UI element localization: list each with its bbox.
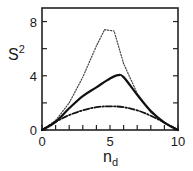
y-axis-label: S2 bbox=[8, 43, 25, 63]
x-axis-label-main: n bbox=[103, 148, 112, 165]
x-tick-label: 10 bbox=[171, 134, 185, 149]
tick-labels: 0510048 bbox=[30, 15, 185, 149]
series-solid bbox=[42, 75, 178, 130]
x-tick-label: 0 bbox=[38, 134, 45, 149]
axis-ticks bbox=[42, 22, 178, 130]
x-axis-label: nd bbox=[103, 148, 118, 168]
chart: 0510048 S2 nd bbox=[0, 0, 193, 171]
x-axis-label-sub: d bbox=[112, 156, 118, 168]
data-series bbox=[42, 30, 178, 130]
y-tick-label: 4 bbox=[30, 69, 37, 84]
y-tick-label: 0 bbox=[30, 123, 37, 138]
y-axis-label-main: S bbox=[8, 46, 19, 63]
y-axis-label-sup: 2 bbox=[19, 43, 25, 55]
x-tick-label: 5 bbox=[106, 134, 113, 149]
y-tick-label: 8 bbox=[30, 15, 37, 30]
